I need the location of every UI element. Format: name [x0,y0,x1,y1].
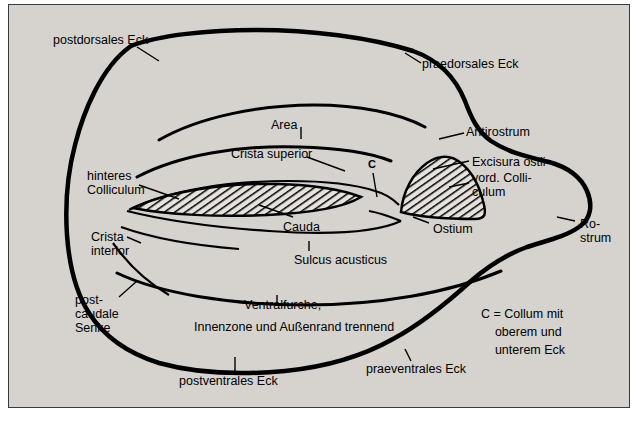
label-innenzone: Innenzone und Außenrand trennend [194,320,394,334]
leader-praeventrales [405,349,411,361]
label-ventralfurche: Ventralfurche, [244,298,321,312]
label-crista-interior: Crista interior [91,230,129,258]
label-hinteres-colliculum: hinteres Colliculum [87,169,145,197]
label-praedorsales-eck: praedorsales Eck [422,57,519,71]
leader-antirostrum [439,133,464,139]
cauda-hatched-region [133,184,361,216]
label-excisura-ostii: Excisura ostii [472,155,546,169]
collum-upper-stroke [375,191,399,205]
label-crista-superior: Crista superior [231,147,312,161]
caption-strip [8,412,630,440]
screenshot-root: postdorsales Eck praedorsales Eck Area A… [0,0,639,444]
label-sulcus-acusticus: Sulcus acusticus [294,253,387,267]
label-rostrum: Ro- strum [580,217,611,245]
label-cauda: Cauda [283,220,320,234]
label-vord-colliculum: vord. Colli- culum [472,171,532,199]
label-postcaudale-senke: post- caudale Senke [75,293,119,335]
label-collum-legend: C = Collum mit oberem und unterem Eck [481,305,565,359]
label-postdorsales-eck: postdorsales Eck [53,33,148,47]
leader-postdorsales [137,47,159,61]
leader-c-marker [373,173,377,197]
label-postventrales-eck: postventrales Eck [179,374,278,388]
crista-interior-line [121,227,239,249]
leader-crista-superior [307,157,345,171]
label-ostium: Ostium [433,222,473,236]
leader-rostrum [557,217,575,221]
label-antirostrum: Antirostrum [466,125,530,139]
label-area: Area [271,118,297,132]
label-c-marker: C [368,157,376,171]
collum-lower-stroke [369,211,401,221]
leader-postcaudale-senke [119,281,137,297]
label-praeventrales-eck: praeventrales Eck [366,362,466,376]
otolith-diagram-figure: postdorsales Eck praedorsales Eck Area A… [8,4,630,408]
